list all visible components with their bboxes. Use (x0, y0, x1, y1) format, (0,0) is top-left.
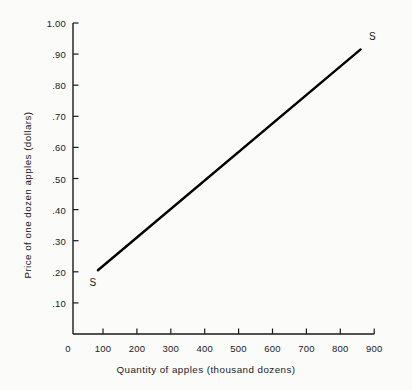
x-tick-label: 200 (129, 343, 145, 354)
x-tick-label: 500 (230, 343, 246, 354)
x-tick-label: 900 (366, 343, 382, 354)
curve-end-label: S (369, 31, 376, 42)
axis-ticks (73, 23, 374, 334)
curve-start-label: S (89, 277, 96, 288)
x-axis-title: Quantity of apples (thousand dozens) (0, 364, 412, 375)
axes-group (73, 23, 374, 334)
x-tick-label: 600 (264, 343, 280, 354)
x-tick-label: 700 (298, 343, 314, 354)
x-tick-label: 100 (95, 343, 111, 354)
x-tick-label: 400 (196, 343, 212, 354)
supply-curve-line (98, 49, 361, 270)
supply-curve-figure: .10.20.30.40.50.60.70.80.901.00 01002003… (0, 0, 412, 390)
x-tick-label: 800 (332, 343, 348, 354)
x-tick-label: 300 (163, 343, 179, 354)
data-series (98, 49, 361, 270)
x-tick-label: 0 (65, 343, 70, 354)
y-axis-title: Price of one dozen apples (dollars) (22, 0, 38, 390)
